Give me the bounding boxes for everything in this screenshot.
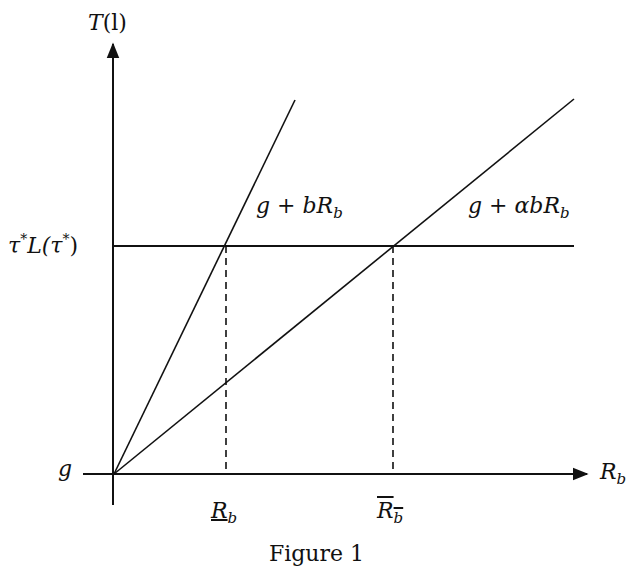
upper-Rb-overlined: Rb (377, 498, 403, 523)
y-label-T: T (88, 10, 103, 35)
x-label-R: R (600, 459, 617, 484)
shallow-label-R: R (543, 193, 560, 218)
x-axis-label: Rb (600, 461, 626, 483)
lower-Rb-tick-label: Rb (211, 500, 237, 522)
origin-label: g (58, 458, 72, 480)
tau-end: ) (70, 233, 79, 258)
tau-1: τ (8, 233, 20, 258)
y-axis-label: T(l) (88, 12, 127, 34)
upper-R: R (377, 498, 394, 523)
steep-label-sub: b (333, 204, 343, 222)
tau-sup-1: * (20, 231, 27, 247)
tau-level-label: τ*L(τ*) (8, 235, 78, 257)
y-label-paren: (l) (103, 10, 127, 35)
tau-mid: L(τ (27, 233, 62, 258)
shallow-line-g-plus-alpha-bRb (114, 99, 574, 474)
upper-Rb-tick-label: Rb (377, 500, 403, 522)
lower-sub: b (228, 509, 238, 527)
shallow-line-label: g + αbRb (468, 195, 570, 217)
lower-Rb-underlined: Rb (211, 498, 237, 523)
steep-line-label: g + bRb (256, 195, 343, 217)
steep-label-g: g + b (256, 193, 317, 218)
tau-sup-2: * (63, 231, 70, 247)
shallow-label-sub: b (560, 204, 570, 222)
shallow-label-g: g + αb (468, 193, 543, 218)
steep-label-R: R (317, 193, 334, 218)
upper-sub: b (394, 509, 404, 527)
lower-R: R (211, 498, 228, 523)
figure-caption: Figure 1 (0, 541, 633, 566)
steep-line-g-plus-bRb (114, 100, 295, 474)
x-label-sub: b (617, 470, 627, 488)
